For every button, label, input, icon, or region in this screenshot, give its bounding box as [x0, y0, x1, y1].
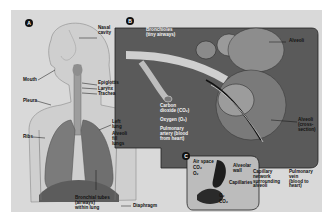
label-mouth: Mouth	[23, 78, 37, 83]
label-alveolar-wall: Alveolar wall	[233, 164, 251, 174]
label-carbon-dioxide: Carbon dioxide (CO₂)	[160, 104, 189, 114]
label-capillary-network: Capillary network surrounding alveoli	[253, 170, 280, 189]
label-bronchioles: Bronchioles (tiny airways)	[146, 28, 175, 38]
panel-a-badge: A	[25, 19, 33, 27]
label-bronchial-tubes: Bronchial tubes (airways) within lung	[75, 196, 110, 210]
label-left-lung: Left lung	[112, 120, 122, 130]
label-alveoli-fill-lungs: Alveoli fill lungs	[112, 132, 127, 146]
label-capillaries: Capillaries	[229, 181, 252, 186]
label-trachea: Trachea	[98, 92, 115, 97]
label-nasal-cavity: Nasal cavity	[98, 26, 111, 36]
label-oxygen: Oxygen (O₂)	[160, 118, 187, 123]
label-alveoli-cross-section: Alveoli (cross- section)	[298, 118, 316, 132]
panel-c-badge: C	[182, 152, 190, 160]
panel-b-badge: B	[126, 17, 134, 25]
label-co2-blood: CO₂	[219, 200, 228, 205]
label-o2-air: O₂	[193, 172, 199, 177]
label-ribs: Ribs	[23, 135, 33, 140]
label-pleura: Pleura	[23, 99, 37, 104]
label-pulmonary-vein: Pulmonary vein (blood to heart)	[289, 170, 313, 189]
panel-b-artwork	[115, 28, 318, 168]
label-alveoli: Alveoli	[289, 39, 304, 44]
respiratory-diagram: A Nasal cavity Mouth Epiglottis Larynx T…	[11, 10, 322, 212]
label-pulmonary-artery: Pulmonary artery (blood from heart)	[160, 127, 188, 141]
label-diaphragm: Diaphragm	[133, 204, 157, 209]
